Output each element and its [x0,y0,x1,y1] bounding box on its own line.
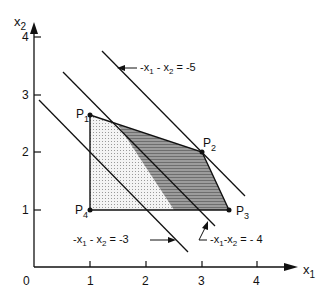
vertex-label-p3: P3 [236,204,249,221]
y-tick-label-3: 3 [22,88,29,102]
equation-label-4: -x1-x2 = - 4 [210,233,263,248]
vertex-label-p2: P2 [203,136,216,153]
vertex-p4 [88,208,93,213]
x-ticks [90,261,257,267]
equation-label-5: -x1 - x2 = -5 [140,61,196,76]
vertex-p2 [200,150,205,155]
x-tick-label-2: 2 [142,274,149,288]
x-axis-label: x1 [303,262,316,280]
vertex-label-p4: P4 [75,203,88,220]
arrow-up-icon [202,221,208,230]
y-tick-label-4: 4 [22,30,29,44]
vertex-p3 [227,208,232,213]
vertex-label-p1: P1 [76,107,89,124]
y-ticks [34,37,41,210]
origin-label: 0 [23,274,30,288]
y-axis-arrow-icon [30,22,38,34]
equation-label-3: -x1 - x2 = -3 [73,233,129,248]
x-tick-label-1: 1 [87,274,94,288]
x-tick-label-3: 3 [198,274,205,288]
lp-diagram: 0 1 2 3 4 1 2 3 4 x1 x2 P1 P2 P3 P4 -x1 … [0,0,328,298]
x-axis-arrow-icon [284,263,298,271]
y-tick-label-1: 1 [22,203,29,217]
y-axis-label: x2 [14,14,27,32]
x-tick-label-4: 4 [253,274,260,288]
y-tick-label-2: 2 [22,145,29,159]
